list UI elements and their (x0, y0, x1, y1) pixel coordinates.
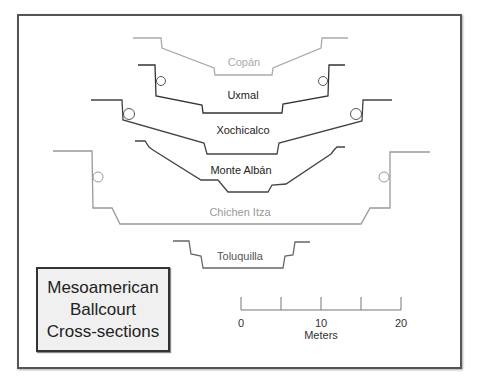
scale-label-0: 0 (238, 317, 244, 329)
chichen-itza-ring-right-icon (379, 172, 389, 182)
profile-chichen-itza: Chichen Itza (53, 151, 430, 224)
xochicalco-label: Xochicalco (216, 124, 269, 136)
scale-label-10: 10 (315, 317, 327, 329)
uxmal-ring-right-icon (319, 77, 328, 86)
uxmal-ring-left-icon (157, 77, 166, 86)
profile-toluquilla: Toluquilla (173, 241, 310, 268)
toluquilla-label: Toluquilla (217, 250, 264, 262)
profile-copan: Copán (133, 38, 348, 75)
monte-alban-label: Monte Albán (210, 164, 271, 176)
scale-unit-label: Meters (304, 329, 338, 341)
uxmal-label: Uxmal (227, 89, 258, 101)
scale-bar: 0 10 20 Meters (238, 297, 407, 341)
scale-label-20: 20 (395, 317, 407, 329)
title-line-2: Ballcourt (70, 299, 136, 321)
copan-label: Copán (228, 56, 260, 68)
chichen-itza-label: Chichen Itza (209, 206, 271, 218)
title-line-3: Cross-sections (47, 321, 159, 343)
profile-monte-alban: Monte Albán (135, 141, 345, 192)
chichen-itza-ring-left-icon (93, 172, 103, 182)
profile-xochicalco: Xochicalco (91, 100, 392, 154)
title-box: Mesoamerican Ballcourt Cross-sections (36, 267, 170, 352)
profile-uxmal: Uxmal (138, 65, 345, 113)
title-line-1: Mesoamerican (47, 277, 159, 299)
xochicalco-ring-left-icon (124, 109, 135, 120)
xochicalco-ring-right-icon (351, 109, 362, 120)
